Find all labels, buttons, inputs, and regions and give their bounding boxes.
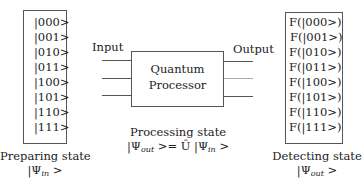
processing-equation: |Ψout >= Û |Ψin > (110, 139, 246, 154)
output-label: Output (233, 42, 274, 56)
psi-ket-end: > (324, 163, 337, 177)
psi-out-symbol: |Ψ (127, 139, 141, 153)
output-state-001: F(|001>) (290, 30, 342, 44)
output-wire-3 (223, 96, 253, 97)
psi-ket-end: > (49, 163, 62, 177)
output-state-110: F(|110>) (289, 105, 341, 119)
input-state-111: |111> (34, 120, 69, 134)
preparing-state-caption: Preparing state (0, 149, 90, 163)
psi-in-label: |Ψin > (0, 163, 90, 178)
equation-end: > (216, 139, 229, 153)
preparing-state-box: |000> |001> |010> |011> |100> |101> |110… (23, 10, 67, 144)
quantum-processor-box: Quantum Processor (131, 51, 224, 107)
psi-symbol: |Ψ (28, 163, 42, 177)
output-state-101: F(|101>) (289, 90, 341, 104)
output-wire-2 (223, 78, 253, 79)
input-state-010: |010> (34, 45, 69, 59)
input-wire-2 (102, 78, 132, 79)
input-state-001: |001> (34, 30, 69, 44)
input-wire-1 (102, 60, 132, 61)
output-state-011: F(|011>) (289, 60, 341, 74)
output-state-100: F(|100>) (289, 75, 341, 89)
detecting-state-box: F(|000>) F(|001>) F(|010>) F(|011>) F(|1… (285, 12, 343, 144)
psi-symbol: |Ψ (297, 163, 311, 177)
psi-in-subscript: in (208, 145, 216, 154)
output-state-111: F(|111>) (289, 120, 341, 134)
input-wire-3 (102, 95, 132, 96)
detecting-state-caption: Detecting state (270, 149, 364, 163)
input-state-011: |011> (34, 60, 69, 74)
equation-middle: >= Û |Ψ (154, 139, 208, 153)
processor-title-line2: Processor (132, 77, 223, 93)
input-state-101: |101> (34, 90, 69, 104)
output-state-010: F(|010>) (289, 45, 341, 59)
input-state-100: |100> (34, 75, 69, 89)
output-wire-1 (223, 61, 253, 62)
psi-out-label: |Ψout > (270, 163, 364, 178)
input-label: Input (92, 40, 123, 54)
psi-out-subscript: out (141, 145, 154, 154)
input-state-000: |000> (34, 15, 69, 29)
processor-title-line1: Quantum (132, 61, 223, 77)
input-state-110: |110> (34, 105, 69, 119)
psi-subscript: out (311, 169, 324, 178)
processing-state-caption: Processing state (116, 125, 240, 139)
output-state-000: F(|000>) (289, 15, 341, 29)
